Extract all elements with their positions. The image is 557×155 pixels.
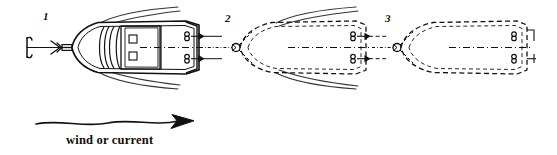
cleat-icon (351, 32, 356, 41)
arrow-icon (357, 34, 370, 39)
figure-canvas: 1 2 3 wind or current (0, 0, 557, 155)
rode-anchor-to-vessel-1 (60, 45, 72, 51)
hull-outline-vessel-1 (72, 21, 199, 74)
vessel-1 (72, 7, 222, 89)
rode-vessel-1-to-ball-2 (200, 44, 236, 51)
vessel-3 (401, 21, 536, 74)
cleat-icon (512, 32, 517, 41)
cleat-icon (512, 54, 517, 63)
stern-bitts-vessel-3 (527, 30, 536, 63)
wind-arrow-icon (36, 115, 194, 129)
nautical-diagram-svg (0, 0, 557, 155)
position-label-3: 3 (385, 13, 391, 24)
arrow-icon (357, 56, 370, 61)
vessel-2 (240, 7, 388, 89)
position-label-1: 1 (43, 11, 49, 22)
wind-or-current-caption: wind or current (66, 133, 153, 148)
position-label-2: 2 (225, 13, 231, 24)
cleat-icon (351, 54, 356, 63)
stern-lines-vessel-1 (203, 36, 222, 58)
